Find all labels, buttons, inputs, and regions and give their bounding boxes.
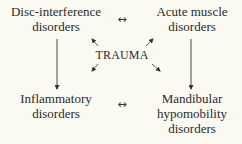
center-label-trauma: TRAUMA [95,48,148,63]
node-disc-interference-disorders: Disc-interference disorders [11,4,101,34]
bidirectional-arrow-icon-top: ↔ [117,14,126,25]
node-line: Acute muscle [156,4,227,19]
node-line: disorders [157,121,227,136]
arrow-trauma-lower-left [92,64,98,71]
arrow-trauma-upper-left [92,39,98,46]
node-line: disorders [20,106,91,121]
node-line: hypomobility [157,106,227,121]
node-inflammatory-disorders: Inflammatory disorders [20,91,91,121]
bidirectional-arrow-icon-bottom: ↔ [117,99,126,110]
node-line: disorders [11,19,101,34]
arrow-trauma-upper-right [146,39,153,46]
node-mandibular-hypomobility-disorders: Mandibular hypomobility disorders [157,91,227,136]
arrow-trauma-lower-right [152,64,160,71]
node-line: Mandibular [157,91,227,106]
node-line: disorders [156,19,227,34]
node-acute-muscle-disorders: Acute muscle disorders [156,4,227,34]
node-line: Inflammatory [20,91,91,106]
node-line: Disc-interference [11,4,101,19]
